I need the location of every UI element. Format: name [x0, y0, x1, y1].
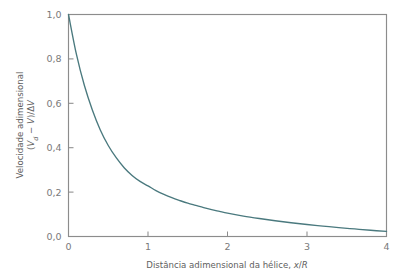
y-tick-label: 0,6 — [46, 98, 61, 109]
y-tick-label: 0,8 — [46, 53, 61, 64]
y-tick-label: 1,0 — [46, 9, 61, 20]
x-tick-label: 1 — [145, 241, 151, 252]
figure-container: 0,00,20,40,60,81,0 01234 Distância adime… — [0, 0, 410, 278]
x-axis-title: Distância adimensional da hélice, x/R — [146, 260, 307, 270]
y-tick-label: 0,4 — [46, 142, 61, 153]
x-tick-label: 0 — [65, 241, 71, 252]
x-tick-label: 3 — [304, 241, 310, 252]
y-tick-label: 0,0 — [46, 231, 61, 242]
y-tick-label: 0,2 — [46, 187, 61, 198]
x-tick-label: 4 — [383, 241, 389, 252]
chart-canvas: 0,00,20,40,60,81,0 01234 Distância adime… — [0, 0, 410, 278]
y-axis-title-line1: Velocidade adimensional — [15, 72, 25, 179]
x-tick-label: 2 — [224, 241, 230, 252]
